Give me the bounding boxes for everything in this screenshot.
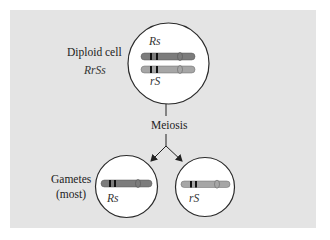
chromosome-label-rS: rS <box>150 76 160 88</box>
gamete-label-rS: rS <box>189 193 199 205</box>
arrow-left <box>151 146 166 161</box>
gametes-label: Gametes <box>51 174 91 186</box>
arrow-right <box>166 146 182 161</box>
diploid-genotype-label: RrSs <box>84 65 106 77</box>
gametes-most-label: (most) <box>56 189 86 201</box>
chromosome-Rs-gamete <box>101 180 152 188</box>
chromosome-label-Rs: Rs <box>149 36 161 48</box>
diploid-cell-label: Diploid cell <box>67 47 122 59</box>
chromosome-Rs-parent <box>141 53 195 61</box>
chromosome-rS-parent <box>141 66 195 74</box>
chromosome-rS-gamete <box>181 180 230 188</box>
diploid-cell-circle <box>128 23 209 104</box>
meiosis-label: Meiosis <box>151 120 187 132</box>
gamete-label-Rs: Rs <box>107 193 119 205</box>
